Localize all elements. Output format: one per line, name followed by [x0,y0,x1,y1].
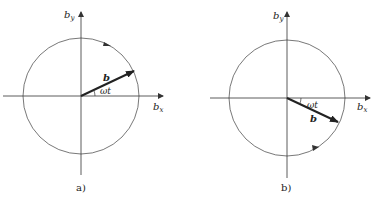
diagram-b: by bx b ωt b) [210,10,370,193]
caption-b: b) [281,182,291,193]
angle-arc-a [94,90,95,96]
rotating-field-diagrams: by bx b ωt a) by bx b ωt b) [0,0,377,199]
diagram-a: by bx b ωt a) [3,9,163,193]
svg-text:bx: bx [153,101,163,114]
svg-text:bx: bx [357,101,367,114]
rotation-arrow-a [103,42,111,46]
svg-text:by: by [64,9,75,22]
angle-arc-b [300,98,301,104]
angle-label-b: ωt [307,100,318,110]
rotation-arrow-b [312,145,319,151]
svg-text:by: by [273,10,284,23]
vector-label-b: b [310,113,317,124]
vector-label-a: b [103,72,110,83]
caption-a: a) [76,182,86,193]
angle-label-a: ωt [100,86,111,96]
